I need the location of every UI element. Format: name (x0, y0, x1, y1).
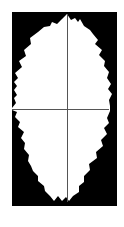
leaf-diagram (0, 0, 124, 227)
diagram-canvas (0, 0, 124, 227)
